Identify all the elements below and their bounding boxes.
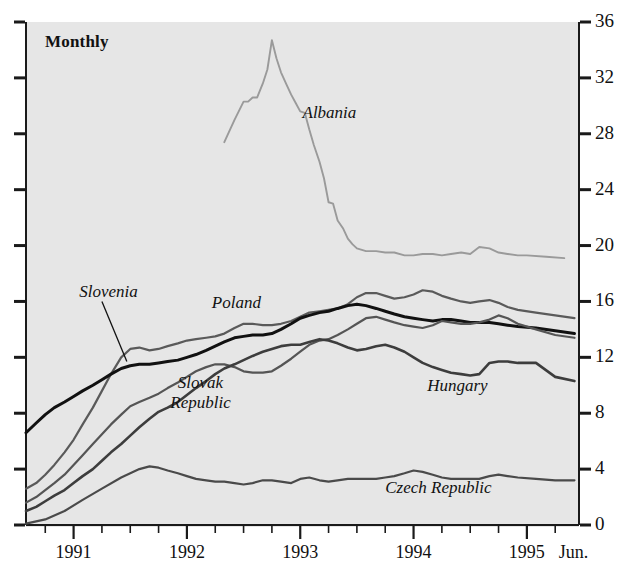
page-title: Monthly bbox=[45, 32, 109, 52]
y-tick-label: 0 bbox=[595, 513, 605, 535]
series-label-slovenia: Slovenia bbox=[79, 282, 138, 302]
series-line-albania bbox=[224, 40, 564, 258]
x-tick-label: 1992 bbox=[169, 542, 205, 563]
y-tick-label: 36 bbox=[595, 10, 614, 32]
y-tick-label: 28 bbox=[595, 122, 614, 144]
y-tick-label: 16 bbox=[595, 289, 614, 311]
y-tick-label: 8 bbox=[595, 401, 605, 423]
series-label-poland: Poland bbox=[212, 293, 261, 313]
x-tick-label: 1993 bbox=[282, 542, 318, 563]
series-line-poland bbox=[26, 304, 574, 433]
x-tick-label: 1994 bbox=[396, 542, 432, 563]
slovenia-leader-line bbox=[102, 301, 127, 361]
y-tick-label: 20 bbox=[595, 234, 614, 256]
x-tick-label: 1991 bbox=[56, 542, 92, 563]
series-label-hungary: Hungary bbox=[427, 376, 487, 396]
series-label-slovak-line2: Republic bbox=[170, 393, 230, 413]
series-line-czech-republic bbox=[26, 466, 574, 523]
leader-line-layer bbox=[102, 301, 127, 361]
y-tick-label: 4 bbox=[595, 457, 605, 479]
series-label-slovak-line1: Slovak bbox=[170, 373, 230, 393]
y-tick-label: 24 bbox=[595, 178, 614, 200]
x-axis-end-label: Jun. bbox=[559, 542, 589, 563]
unemployment-chart-figure: Monthly Albania Slovenia Poland Slovak R… bbox=[0, 0, 630, 573]
y-tick-label: 32 bbox=[595, 66, 614, 88]
series-label-czech-republic: Czech Republic bbox=[385, 478, 491, 498]
series-label-slovak-republic: Slovak Republic bbox=[170, 373, 230, 412]
series-line-slovenia bbox=[26, 290, 574, 488]
series-label-albania: Albania bbox=[303, 103, 357, 123]
y-tick-label: 12 bbox=[595, 345, 614, 367]
x-tick-label: 1995 bbox=[509, 542, 545, 563]
